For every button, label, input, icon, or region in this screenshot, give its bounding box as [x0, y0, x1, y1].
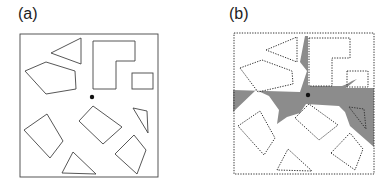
obstacle-rectangle	[132, 73, 153, 89]
diagram-canvas	[0, 0, 387, 188]
viewer-point	[90, 95, 94, 99]
panel-a	[20, 34, 158, 177]
obstacle-quad-right	[115, 135, 146, 174]
panel-b	[233, 33, 374, 174]
obstacle-quad-right-dotted	[331, 133, 363, 170]
obstacle-quad-center	[79, 106, 122, 144]
obstacle-triangle	[51, 38, 81, 64]
obstacle-l-shape-dotted	[309, 38, 350, 86]
obstacle-pentagon	[25, 62, 76, 94]
obstacle-triangle-dotted	[266, 37, 297, 62]
obstacle-quad-left	[24, 114, 63, 158]
obstacle-small-triangle	[133, 108, 148, 133]
visibility-region	[233, 36, 374, 147]
obstacle-quad-left-dotted	[238, 111, 275, 155]
environment-boundary	[20, 34, 158, 177]
obstacle-l-shape	[93, 41, 135, 89]
viewer-point	[306, 93, 310, 97]
obstacle-bottom-triangle	[62, 152, 96, 174]
obstacle-pentagon-dotted	[240, 60, 293, 92]
obstacle-bottom-triangle-dotted	[277, 149, 312, 171]
